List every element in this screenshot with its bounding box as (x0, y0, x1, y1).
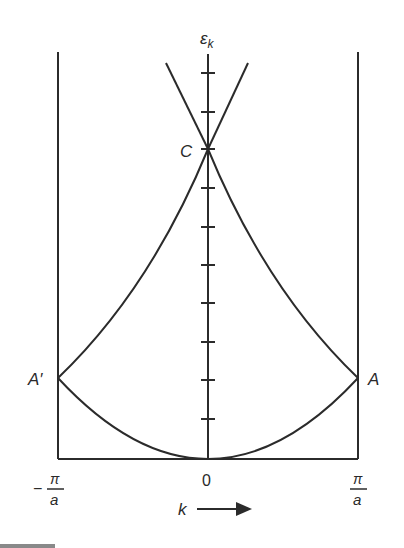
svg-text:π: π (50, 471, 60, 487)
x-tick-pi-over-a: π a (350, 471, 367, 508)
energy-axis-label: εk (200, 29, 214, 51)
point-label-a: A (367, 370, 379, 389)
upper-line-right (208, 63, 248, 149)
right-arrow-icon (197, 502, 252, 516)
svg-text:a: a (353, 491, 361, 508)
band-diagram: εk C A′ A 0 − π a π a k (0, 0, 404, 548)
upper-line-left (166, 63, 208, 149)
x-tick-zero: 0 (202, 472, 211, 489)
svg-text:a: a (50, 491, 58, 508)
svg-text:−: − (33, 480, 42, 497)
x-tick-neg-pi-over-a: − π a (33, 471, 64, 508)
svg-text:π: π (353, 471, 363, 487)
point-label-c: C (180, 142, 193, 161)
point-label-a-prime: A′ (27, 370, 43, 389)
caption-fragment (0, 544, 55, 548)
upper-band-left (58, 149, 208, 378)
upper-band-right (208, 149, 358, 378)
x-axis-label: k (178, 500, 188, 519)
